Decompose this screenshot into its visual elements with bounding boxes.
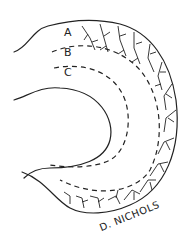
diagram-figure: A B C D. NICHOLS <box>0 0 189 234</box>
boundary-b-c <box>50 66 128 167</box>
label-b: B <box>64 46 72 59</box>
label-a: A <box>64 26 72 39</box>
label-c: C <box>64 66 72 79</box>
diagram-drawing <box>0 0 189 234</box>
outer-boundary <box>14 20 177 213</box>
